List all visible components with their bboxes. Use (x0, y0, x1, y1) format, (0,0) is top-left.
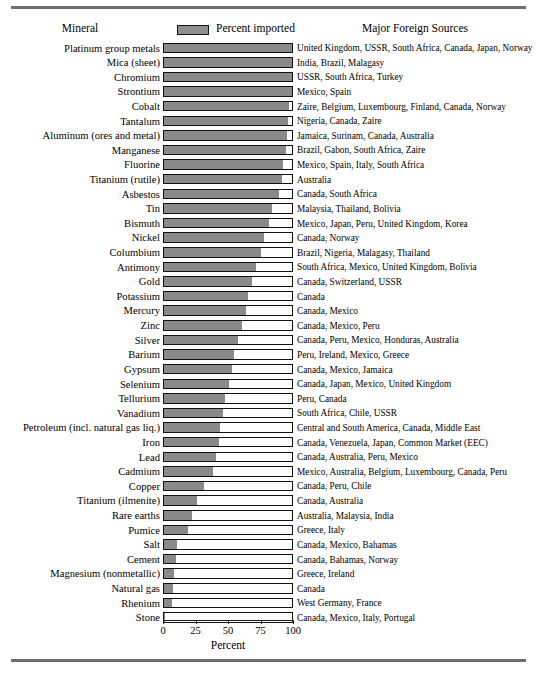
row-sources-text: Canada, Norway (297, 232, 359, 244)
top-rule (11, 6, 526, 9)
chart-row: TantalumNigeria, Canada, Zaire (0, 114, 537, 129)
bar-fill (164, 453, 216, 462)
row-label-mineral: Tellurium (118, 392, 160, 405)
chart-row: ChromiumUSSR, South Africa, Turkey (0, 70, 537, 85)
bar-track (163, 291, 293, 302)
column-header-mineral: Mineral (0, 22, 160, 34)
row-label-mineral: Natural gas (111, 582, 160, 595)
row-sources-text: Zaire, Belgium, Luxembourg, Finland, Can… (297, 101, 506, 113)
bar-track (163, 262, 293, 273)
row-label-mineral: Mercury (124, 304, 160, 317)
bar-fill (164, 540, 177, 549)
bar-fill (164, 496, 197, 505)
row-sources-text: Canada, South Africa (297, 188, 377, 200)
axis-tick-mark (293, 620, 294, 624)
bar-fill (164, 438, 219, 447)
bar-track (163, 320, 293, 331)
row-sources-text: Peru, Ireland, Mexico, Greece (297, 349, 409, 361)
row-sources-text: Greece, Ireland (297, 568, 354, 580)
row-sources-text: Nigeria, Canada, Zaire (297, 115, 382, 127)
row-sources-text: United Kingdom, USSR, South Africa, Cana… (297, 42, 533, 54)
chart-row: FluorineMexico, Spain, Italy, South Afri… (0, 158, 537, 173)
bar-track (163, 510, 293, 521)
bar-track (163, 452, 293, 463)
chart-row: TinMalaysia, Thailand, Bolivia (0, 202, 537, 217)
chart-header: Mineral Percent imported Major Foreign S… (0, 22, 537, 38)
row-sources-text: Canada, Peru, Mexico, Honduras, Australi… (297, 334, 459, 346)
bar-fill (164, 190, 279, 199)
chart-page: Mineral Percent imported Major Foreign S… (0, 0, 537, 677)
chart-row: ColumbiumBrazil, Nigeria, Malagasy, Thai… (0, 246, 537, 261)
chart-row: PotassiumCanada (0, 289, 537, 304)
row-sources-text: Canada, Mexico (297, 305, 358, 317)
row-sources-text: Canada, Peru, Chile (297, 480, 371, 492)
chart-row: CopperCanada, Peru, Chile (0, 479, 537, 494)
bottom-rule (11, 659, 526, 662)
row-sources-text: Mexico, Spain (297, 86, 351, 98)
chart-row: CobaltZaire, Belgium, Luxembourg, Finlan… (0, 99, 537, 114)
bar-track (163, 276, 293, 287)
bar-fill (164, 482, 204, 491)
row-sources-text: Mexico, Spain, Italy, South Africa (297, 159, 424, 171)
chart-row: Petroleum (incl. natural gas liq.)Centra… (0, 421, 537, 436)
bar-track (163, 437, 293, 448)
bar-track (163, 174, 293, 185)
row-label-mineral: Cement (127, 553, 160, 566)
row-label-mineral: Selenium (120, 378, 160, 391)
chart-row: VanadiumSouth Africa, Chile, USSR (0, 406, 537, 421)
row-sources-text: South Africa, Mexico, United Kingdom, Bo… (297, 261, 477, 273)
chart-row: CadmiumMexico, Australia, Belgium, Luxem… (0, 465, 537, 480)
bar-track (163, 598, 293, 609)
axis-tick-mark (196, 620, 197, 624)
chart-row: StrontiumMexico, Spain (0, 85, 537, 100)
row-label-mineral: Bismuth (124, 217, 160, 230)
bar-track (163, 379, 293, 390)
row-label-mineral: Salt (144, 538, 160, 551)
row-sources-text: Canada, Mexico, Jamaica (297, 364, 393, 376)
chart-row: CementCanada, Bahamas, Norway (0, 552, 537, 567)
row-label-mineral: Cadmium (118, 465, 160, 478)
row-sources-text: Central and South America, Canada, Middl… (297, 422, 480, 434)
bar-track (163, 364, 293, 375)
axis-tick-label: 100 (273, 625, 313, 636)
bar-fill (164, 584, 173, 593)
row-sources-text: Brazil, Nigeria, Malagasy, Thailand (297, 247, 430, 259)
chart-row: GypsumCanada, Mexico, Jamaica (0, 362, 537, 377)
bar-track (163, 116, 293, 127)
chart-row: SilverCanada, Peru, Mexico, Honduras, Au… (0, 333, 537, 348)
row-label-mineral: Platinum group metals (64, 42, 160, 55)
row-sources-text: Peru, Canada (297, 393, 347, 405)
bar-track (163, 145, 293, 156)
row-label-mineral: Antimony (117, 261, 160, 274)
bar-fill (164, 569, 174, 578)
x-axis: 0255075100 Percent (0, 620, 537, 660)
chart-row: IronCanada, Venezuela, Japan, Common Mar… (0, 435, 537, 450)
row-sources-text: Canada, Australia (297, 495, 363, 507)
bar-fill (164, 102, 289, 111)
row-sources-text: West Germany, France (297, 597, 382, 609)
chart-row: Mica (sheet)India, Brazil, Malagasy (0, 56, 537, 71)
bar-track (163, 568, 293, 579)
bar-fill (164, 146, 286, 155)
bar-track (163, 349, 293, 360)
bar-fill (164, 204, 272, 213)
bar-rows: Platinum group metalsUnited Kingdom, USS… (0, 41, 537, 625)
bar-fill (164, 423, 220, 432)
row-label-mineral: Asbestos (122, 188, 160, 201)
bar-fill (164, 160, 283, 169)
chart-row: BariumPeru, Ireland, Mexico, Greece (0, 348, 537, 363)
bar-fill (164, 292, 248, 301)
bar-fill (164, 248, 261, 257)
chart-row: TelluriumPeru, Canada (0, 392, 537, 407)
row-label-mineral: Barium (128, 348, 160, 361)
bar-fill (164, 511, 192, 520)
axis-title-percent: Percent (163, 639, 293, 651)
bar-fill (164, 409, 223, 418)
bar-fill (164, 175, 282, 184)
row-label-mineral: Tin (146, 202, 160, 215)
chart-row: AntimonySouth Africa, Mexico, United Kin… (0, 260, 537, 275)
axis-tick-mark (228, 620, 229, 624)
bar-track (163, 57, 293, 68)
row-label-mineral: Copper (129, 480, 160, 493)
row-sources-text: Australia (297, 174, 331, 186)
